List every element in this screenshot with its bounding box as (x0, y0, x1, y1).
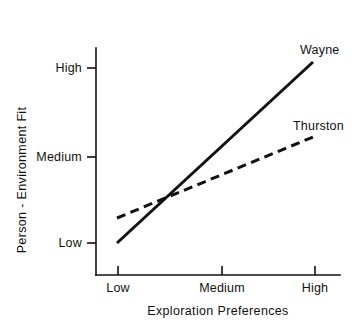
x-tick-label-medium: Medium (199, 281, 245, 295)
x-tick-label-high: High (302, 281, 329, 295)
chart-figure: High Medium Low Low Medium High Explorat… (0, 0, 358, 328)
series-label-thurston: Thurston (293, 119, 344, 133)
series-line-wayne (117, 62, 313, 243)
x-tick-label-low: Low (106, 281, 130, 295)
y-axis-title: Person - Environment Fit (15, 107, 29, 254)
x-axis-title: Exploration Preferences (147, 304, 288, 318)
series-label-wayne: Wayne (300, 43, 339, 57)
y-tick-label-low: Low (58, 236, 82, 250)
series-line-thurston (117, 137, 313, 218)
y-tick-label-high: High (55, 61, 82, 75)
y-tick-label-medium: Medium (36, 150, 82, 164)
line-chart-canvas: High Medium Low Low Medium High Explorat… (0, 0, 358, 328)
